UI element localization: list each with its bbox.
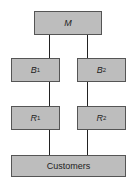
- node-b1: B1: [11, 58, 60, 82]
- node-r2: R2: [77, 106, 126, 130]
- node-customers-label: Customers: [47, 161, 91, 171]
- node-customers: Customers: [11, 155, 126, 177]
- connector-m-b2: [87, 35, 88, 58]
- node-r1: R1: [11, 106, 60, 130]
- connector-m-b1: [49, 35, 50, 58]
- connector-r1-customers: [49, 130, 50, 155]
- node-r1-subscript: 1: [37, 115, 40, 121]
- node-m: M: [34, 11, 102, 35]
- connector-b1-r1: [49, 82, 50, 106]
- node-b2-subscript: 2: [103, 67, 106, 73]
- connector-r2-customers: [87, 130, 88, 155]
- node-r2-subscript: 2: [103, 115, 106, 121]
- connector-b2-r2: [87, 82, 88, 106]
- node-m-label: M: [64, 18, 72, 28]
- node-b1-subscript: 1: [37, 67, 40, 73]
- node-b2: B2: [77, 58, 126, 82]
